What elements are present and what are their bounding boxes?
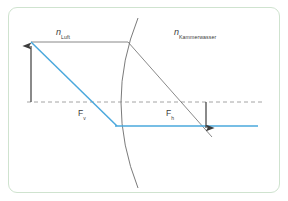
label-medium-left-subscript: Luft bbox=[61, 34, 70, 40]
figure-root: nLuft nKammerwasser Fv Fh bbox=[0, 0, 288, 201]
label-medium-right-subscript: Kammerwasser bbox=[179, 34, 216, 40]
label-focal-back-subscript: h bbox=[171, 115, 174, 121]
label-focal-front-subscript: v bbox=[83, 115, 86, 121]
optics-ray-diagram bbox=[0, 0, 288, 201]
focal-ray-incident bbox=[31, 42, 117, 126]
parallel-ray-refracted bbox=[128, 42, 212, 137]
label-medium-right: nKammerwasser bbox=[174, 22, 216, 40]
label-focal-front: Fv bbox=[78, 103, 86, 121]
label-focal-back: Fh bbox=[166, 103, 174, 121]
label-medium-left: nLuft bbox=[56, 22, 70, 40]
